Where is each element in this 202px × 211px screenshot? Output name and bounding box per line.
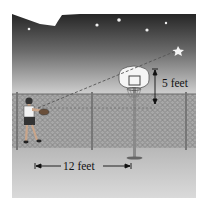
star-icon — [28, 28, 31, 31]
star-icon — [117, 18, 121, 22]
person-shorts — [24, 117, 35, 125]
pole-base — [127, 156, 143, 159]
star-icon — [165, 22, 167, 24]
star-icon — [145, 28, 148, 31]
person-shirt — [24, 106, 34, 117]
star-icon — [95, 23, 98, 26]
person-head — [25, 97, 32, 104]
ground — [12, 148, 196, 198]
basketball — [39, 109, 49, 115]
figure-illustration — [0, 0, 202, 211]
distance-label: 12 feet — [63, 161, 95, 173]
height-label: 5 feet — [162, 78, 188, 90]
